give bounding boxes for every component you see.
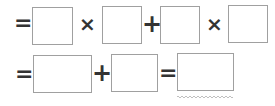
plus-sign: + [142,12,159,36]
answer-box-6[interactable] [111,54,158,92]
answer-box-4[interactable] [228,5,268,43]
answer-box-2[interactable] [102,6,142,44]
answer-box-3[interactable] [160,6,200,44]
equals-sign: = [15,63,31,85]
equals-sign: = [159,62,175,84]
equals-sign: = [14,12,30,34]
answer-box-1[interactable] [32,7,73,45]
wavy-underline-decoration [177,95,234,99]
multiply-sign: × [206,14,222,34]
multiply-sign: × [79,14,95,34]
answer-box-5[interactable] [33,55,92,93]
answer-box-7[interactable] [177,53,234,91]
plus-sign: + [92,61,109,85]
